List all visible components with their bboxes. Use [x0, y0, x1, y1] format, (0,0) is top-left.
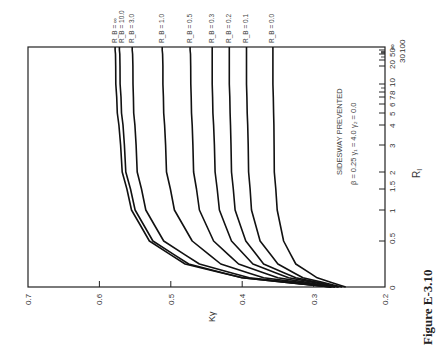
- text-layer: SIDESWAY PREVENTED β = 0.25 γ₁ = 4.0 γ₂ …: [207, 88, 435, 345]
- curve-label: R_B = 0.0: [268, 14, 276, 43]
- curve-r-b-0-2: [229, 47, 338, 287]
- ri-tick-label: 10: [388, 78, 397, 87]
- ri-tick-label: 5: [388, 111, 397, 116]
- curve-r-b-0-1: [247, 47, 343, 287]
- ri-tick-label: ∞: [388, 44, 397, 50]
- plot-frame: [28, 47, 385, 287]
- ky-tick-label: 0.5: [167, 293, 176, 305]
- ri-tick-label: 30: [398, 54, 407, 63]
- ri-tick-label: 100: [398, 39, 407, 53]
- ri-tick-label: 4: [388, 123, 397, 128]
- ri-tick-label: 8: [388, 90, 397, 95]
- ri-axis-label: RI: [411, 169, 423, 178]
- ky-tick-label: 0.2: [381, 293, 390, 305]
- ky-tick-label: 0.6: [95, 293, 104, 305]
- curve-labels: R_B = ∞R_B = 10.0R_B = 3.0R_B = 1.0R_B =…: [111, 10, 276, 43]
- curve-label: R_B = 0.5: [186, 14, 194, 43]
- curve-r-b-: [115, 47, 331, 287]
- curve-label: R_B = 1.0: [158, 14, 166, 43]
- curves: [115, 47, 346, 287]
- ri-tick-label: 1.5: [388, 180, 397, 192]
- ri-tick-label: 20: [388, 60, 397, 69]
- ky-tick-label: 0.4: [238, 293, 247, 305]
- ri-tick-label: 3: [388, 143, 397, 148]
- ky-axis-label: Kγ: [207, 311, 217, 322]
- curve-label: R_B = 10.0: [118, 10, 126, 43]
- curve-label: R_B = 0.3: [208, 14, 216, 43]
- ri-tick-label: 0.5: [388, 232, 397, 244]
- figure-caption: Figure E-3.10: [420, 269, 435, 345]
- ri-axis-ticks: 00.511.5234567810203050100∞: [379, 39, 407, 290]
- ri-tick-label: 2: [388, 170, 397, 175]
- ri-tick-label: 1: [388, 208, 397, 213]
- ri-tick-label: 0: [388, 285, 397, 290]
- ky-tick-label: 0.3: [310, 293, 319, 305]
- annotation-params: β = 0.25 γ₁ = 4.0 γ₂ = 0.0: [349, 102, 358, 185]
- curve-label: R_B = 3.0: [128, 14, 136, 43]
- chart-canvas: 0.20.30.40.50.60.7 00.511.52345678102030…: [0, 0, 441, 355]
- curve-label: R_B = 0.2: [225, 14, 233, 43]
- ky-tick-label: 0.7: [24, 293, 33, 305]
- annotation-sidesway: SIDESWAY PREVENTED: [335, 88, 344, 175]
- curve-label: R_B = 0.1: [242, 14, 250, 43]
- ri-tick-label: 6: [388, 102, 397, 107]
